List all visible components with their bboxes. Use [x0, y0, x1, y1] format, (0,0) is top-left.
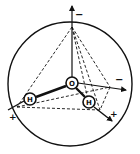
bond-o-h-right: [76, 88, 85, 97]
charge-top-label: −: [75, 9, 83, 20]
svg-text:O: O: [69, 80, 75, 88]
charge-right-label: −: [115, 74, 123, 85]
svg-text:H: H: [27, 96, 33, 104]
bond-o-h-left: [36, 86, 66, 97]
atom-hydrogen-left: H: [24, 93, 36, 105]
atom-oxygen: O: [66, 77, 78, 89]
charge-left-label: +: [9, 112, 17, 122]
charge-bottom-right-label: +: [110, 109, 118, 119]
atom-hydrogen-right: H: [83, 96, 95, 108]
svg-text:H: H: [86, 99, 92, 107]
water-molecule-diagram: O H H − − + +: [0, 0, 140, 154]
